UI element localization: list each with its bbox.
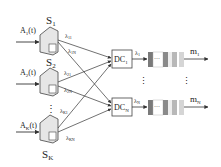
dispatcher-dc1: DC1 λ1 <box>112 50 147 68</box>
svg-text:S2: S2 <box>46 56 56 70</box>
server-ellipsis: ⋮ <box>46 103 56 114</box>
server-label: S1 <box>46 14 56 28</box>
svg-text:λKN: λKN <box>66 135 75 142</box>
svg-text:λ21: λ21 <box>64 70 71 77</box>
input-a1: A1(t) <box>16 26 39 42</box>
svg-text:···: ··· <box>154 56 160 62</box>
queue-1: ··· m1 <box>148 46 208 67</box>
svg-text:λ1N: λ1N <box>68 48 76 55</box>
svg-text:λ11: λ11 <box>65 33 72 40</box>
svg-text:λ2N: λ2N <box>64 87 72 94</box>
svg-text:⋮: ⋮ <box>139 76 148 86</box>
svg-text:A1(t): A1(t) <box>20 26 36 36</box>
svg-text:mN: mN <box>190 94 201 105</box>
svg-text:SK: SK <box>42 148 53 162</box>
server-sk: SK <box>40 115 58 162</box>
queue-n: ··· mN <box>148 94 208 115</box>
svg-text:AK(t): AK(t) <box>20 121 37 131</box>
svg-text:···: ··· <box>154 104 160 110</box>
server-s1: S1 <box>40 14 58 55</box>
svg-text:λN: λN <box>134 98 140 105</box>
routing-lines <box>58 40 111 132</box>
server-s2: S2 <box>40 56 58 96</box>
svg-text:⋮: ⋮ <box>182 76 191 86</box>
svg-text:λ1: λ1 <box>135 50 140 57</box>
svg-text:A2(t): A2(t) <box>20 68 36 78</box>
dispatcher-dcn: DCN λN <box>112 98 147 116</box>
input-ak: AK(t) <box>16 121 39 132</box>
system-diagram: S1 A1(t) S2 A2(t) ⋮ SK AK(t) λ11 λ1N λ21 <box>0 0 221 167</box>
svg-text:m1: m1 <box>190 46 200 57</box>
input-a2: A2(t) <box>16 68 39 84</box>
svg-text:λK1: λK1 <box>60 108 68 115</box>
